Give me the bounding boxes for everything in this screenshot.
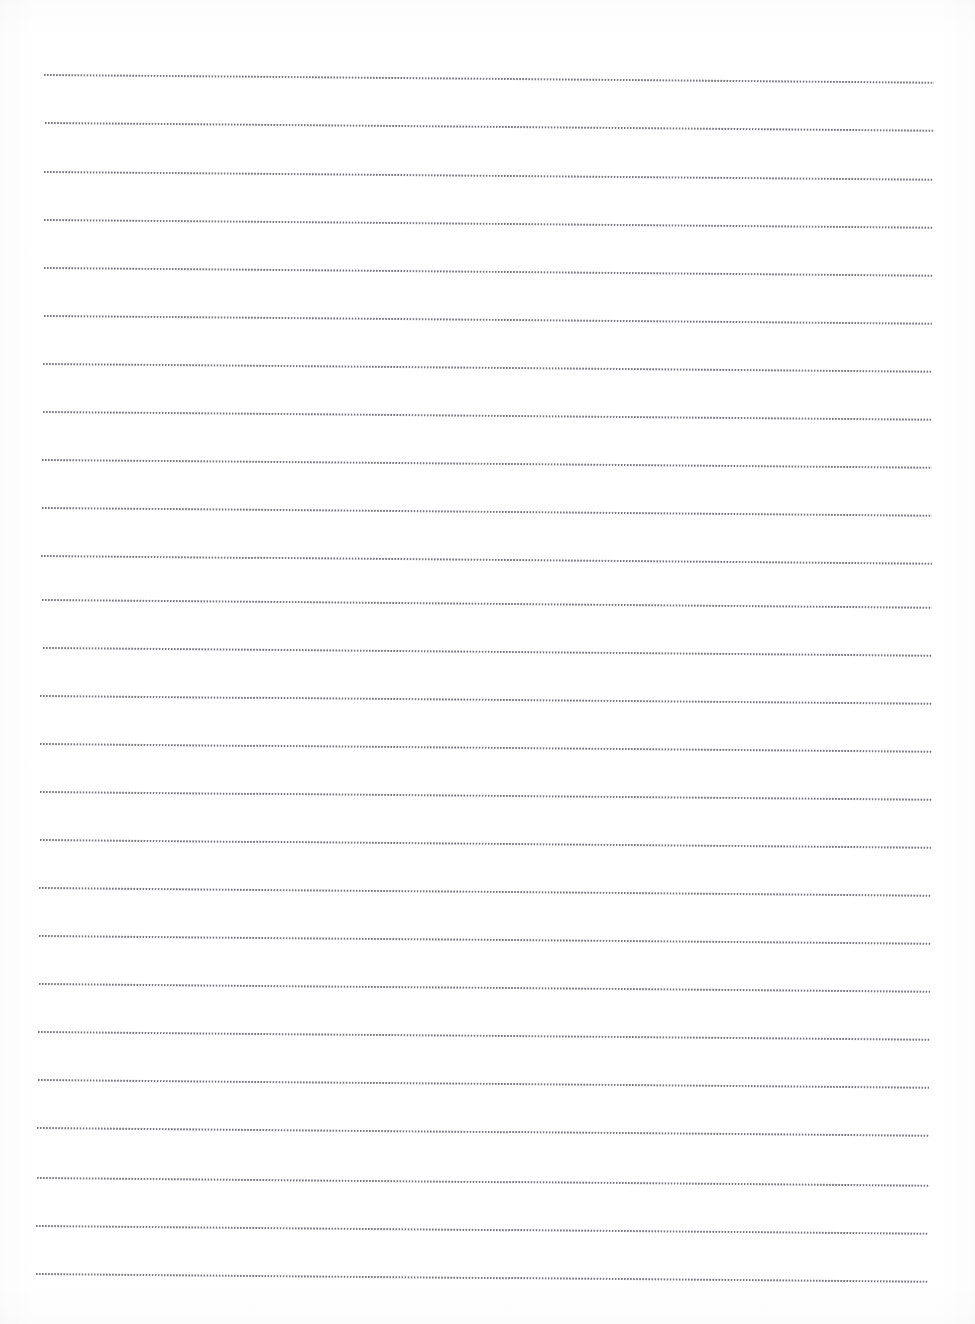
ruled-line [36,1225,928,1235]
ruled-line [42,507,932,517]
ruled-line [41,555,932,565]
ruled-line [38,1031,930,1041]
paper-sheet [0,0,975,1324]
ruled-line [42,599,932,609]
ruled-line-stack [0,0,975,1324]
ruled-line [37,1177,929,1187]
ruled-line [43,411,932,421]
ruled-line [39,983,930,993]
ruled-line [43,363,932,373]
ruled-line [45,122,934,132]
ruled-line [43,647,932,657]
ruled-line [42,459,932,469]
ruled-line [44,219,933,229]
ruled-line [44,267,933,277]
ruled-line [40,695,932,705]
ruled-line [39,935,931,945]
ruled-line [39,887,931,897]
ruled-line [40,791,932,801]
page-root [0,0,975,1324]
ruled-line [40,743,932,753]
ruled-line [44,315,932,325]
ruled-line [37,1127,929,1137]
ruled-line [44,171,933,181]
ruled-line [36,1273,928,1283]
ruled-line [40,839,931,849]
ruled-line [38,1079,929,1089]
ruled-line [44,74,934,84]
